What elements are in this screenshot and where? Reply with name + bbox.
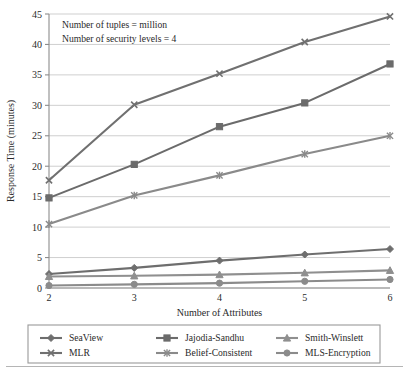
- marker-square: [387, 61, 393, 67]
- marker-square: [46, 195, 52, 201]
- circle-marker: [216, 280, 222, 286]
- marker-square: [216, 124, 222, 130]
- x-tick-label: 4: [217, 292, 222, 303]
- square-marker: [216, 124, 222, 130]
- legend-item-label: SeaView: [69, 332, 103, 343]
- marker-plus-diamond: [216, 257, 223, 264]
- y-axis: 051015202530354045: [32, 9, 49, 294]
- diamond-marker: [131, 264, 138, 271]
- circle-marker: [284, 350, 290, 356]
- y-tick-label: 25: [32, 130, 42, 141]
- legend-item-label: MLR: [69, 347, 90, 358]
- marker-plus-diamond: [48, 335, 55, 342]
- y-tick-label: 30: [32, 100, 42, 111]
- marker-square: [131, 161, 137, 167]
- legend-item-label: Jajodia-Sandhu: [185, 332, 244, 343]
- series-jajodia-sandhu: [46, 61, 393, 201]
- legend-item-label: MLS-Encryption: [305, 347, 371, 358]
- marker-circle: [302, 278, 308, 284]
- series-mls-encryption: [46, 276, 393, 288]
- y-axis-title: Response Time (minutes): [5, 100, 17, 202]
- y-tick-label: 40: [32, 39, 42, 50]
- square-marker: [302, 100, 308, 106]
- series-layer: [45, 13, 393, 288]
- y-tick-label: 0: [37, 283, 42, 294]
- square-marker: [164, 335, 170, 341]
- diamond-marker: [301, 251, 308, 258]
- annotation-line: Number of security levels = 4: [62, 33, 177, 44]
- y-tick-label: 20: [32, 161, 42, 172]
- x-tick-label: 6: [388, 292, 393, 303]
- legend-item-belief-consistent[interactable]: Belief-Consistent: [156, 347, 252, 358]
- circle-marker: [387, 276, 393, 282]
- series-line: [49, 136, 390, 224]
- y-tick-label: 15: [32, 191, 42, 202]
- marker-circle: [387, 276, 393, 282]
- x-tick-label: 3: [132, 292, 137, 303]
- marker-square: [302, 100, 308, 106]
- circle-marker: [302, 278, 308, 284]
- response-time-line-chart: 051015202530354045 23456 Number of tuple…: [0, 0, 409, 372]
- marker-plus-diamond: [387, 246, 394, 253]
- legend: SeaViewJajodia-SandhuSmith-WinslettMLRBe…: [28, 325, 380, 363]
- series-belief-consistent: [46, 132, 393, 228]
- marker-plus-diamond: [301, 251, 308, 258]
- marker-square: [164, 335, 170, 341]
- y-tick-label: 45: [32, 9, 42, 20]
- y-tick-label: 10: [32, 222, 42, 233]
- marker-circle: [284, 350, 290, 356]
- circle-marker: [46, 282, 52, 288]
- diamond-marker: [216, 257, 223, 264]
- chart-figure: 051015202530354045 23456 Number of tuple…: [0, 0, 409, 372]
- legend-item-jajodia-sandhu[interactable]: Jajodia-Sandhu: [156, 332, 244, 343]
- square-marker: [131, 161, 137, 167]
- annotation-line: Number of tuples = million: [62, 19, 167, 30]
- legend-item-label: Belief-Consistent: [185, 347, 252, 358]
- square-marker: [387, 61, 393, 67]
- annotation-textbox: Number of tuples = millionNumber of secu…: [62, 19, 177, 44]
- marker-plus-diamond: [131, 264, 138, 271]
- legend-item-label: Smith-Winslett: [305, 332, 364, 343]
- series-smith-winslett: [45, 267, 393, 280]
- square-marker: [46, 195, 52, 201]
- legend-item-smith-winslett[interactable]: Smith-Winslett: [276, 332, 364, 343]
- marker-circle: [216, 280, 222, 286]
- x-axis: 23456: [47, 288, 393, 303]
- marker-circle: [46, 282, 52, 288]
- legend-item-mls-encryption[interactable]: MLS-Encryption: [276, 347, 371, 358]
- x-axis-title: Number of Attributes: [177, 307, 263, 318]
- diamond-marker: [48, 335, 55, 342]
- circle-marker: [131, 281, 137, 287]
- x-tick-label: 5: [302, 292, 307, 303]
- x-tick-label: 2: [47, 292, 52, 303]
- y-tick-label: 35: [32, 69, 42, 80]
- diamond-marker: [387, 246, 394, 253]
- gridlines: [49, 14, 390, 288]
- legend-item-seaview[interactable]: SeaView: [40, 332, 103, 343]
- y-tick-label: 5: [37, 252, 42, 263]
- legend-item-mlr[interactable]: MLR: [40, 347, 90, 358]
- marker-circle: [131, 281, 137, 287]
